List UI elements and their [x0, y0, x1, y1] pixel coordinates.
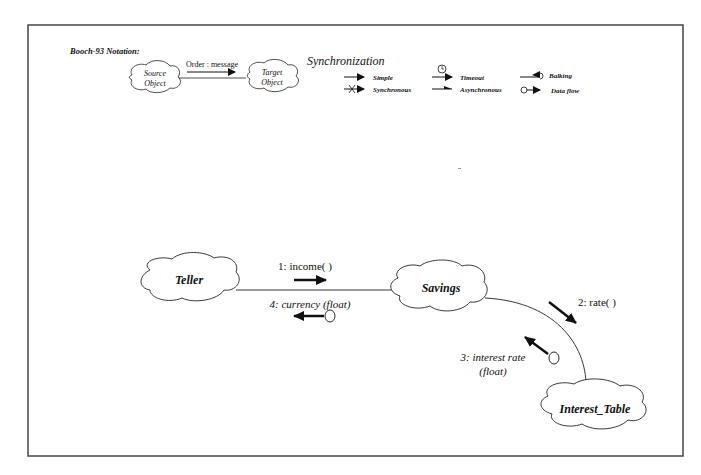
legend-simple: Simple: [344, 74, 393, 82]
object-interest-table: Interest_Table: [541, 379, 646, 429]
synchronization-title: Synchronization: [307, 54, 385, 68]
message-3-label-type: (float): [479, 365, 507, 378]
legend-simple-label: Simple: [373, 74, 393, 82]
notation-message-label: Order : message: [186, 60, 238, 69]
legend-asynchronous-label: Asynchronous: [459, 86, 502, 94]
legend-balking: Balking: [520, 71, 572, 80]
message-4-label: 4: currency (float): [270, 298, 351, 311]
message-4-data-flow-icon: [294, 310, 335, 322]
balking-arrow-icon: [520, 71, 543, 79]
timeout-arrow-icon: [432, 65, 452, 77]
notation-title: Booch-93 Notation:: [69, 46, 140, 56]
legend-data-flow-label: Data flow: [550, 87, 580, 95]
source-object-cloud: Source Object: [129, 61, 180, 93]
object-teller-label: Teller: [175, 273, 204, 287]
legend-asynchronous: Asynchronous: [432, 86, 502, 94]
legend-data-flow: Data flow: [521, 87, 580, 95]
object-savings-label: Savings: [422, 281, 461, 295]
object-interest-table-label: Interest_Table: [559, 402, 632, 416]
source-object-label-1: Source: [144, 69, 166, 78]
object-teller: Teller: [141, 253, 239, 301]
synchronous-arrow-icon: [344, 85, 364, 93]
data-flow-icon: [521, 87, 540, 93]
legend-balking-label: Balking: [548, 72, 572, 80]
legend-timeout-label: Timeout: [460, 74, 485, 82]
target-object-label-1: Target: [262, 68, 283, 77]
message-3-label: 3: interest rate: [460, 351, 526, 363]
message-3-data-flow-icon: [525, 337, 559, 364]
diagram-canvas: Booch-93 Notation: Source Object Order :…: [0, 0, 701, 475]
message-2-label: 2: rate( ): [578, 296, 616, 309]
target-object-label-2: Object: [261, 78, 283, 87]
message-1-label: 1: income( ): [278, 260, 332, 273]
target-object-cloud: Target Object: [247, 59, 298, 91]
source-object-label-2: Object: [144, 79, 166, 88]
legend-timeout: Timeout: [432, 65, 485, 82]
object-savings: Savings: [391, 260, 487, 311]
asynchronous-arrow-icon: [432, 86, 452, 89]
legend-synchronous-label: Synchronous: [373, 86, 411, 94]
legend-synchronous: Synchronous: [344, 85, 411, 94]
